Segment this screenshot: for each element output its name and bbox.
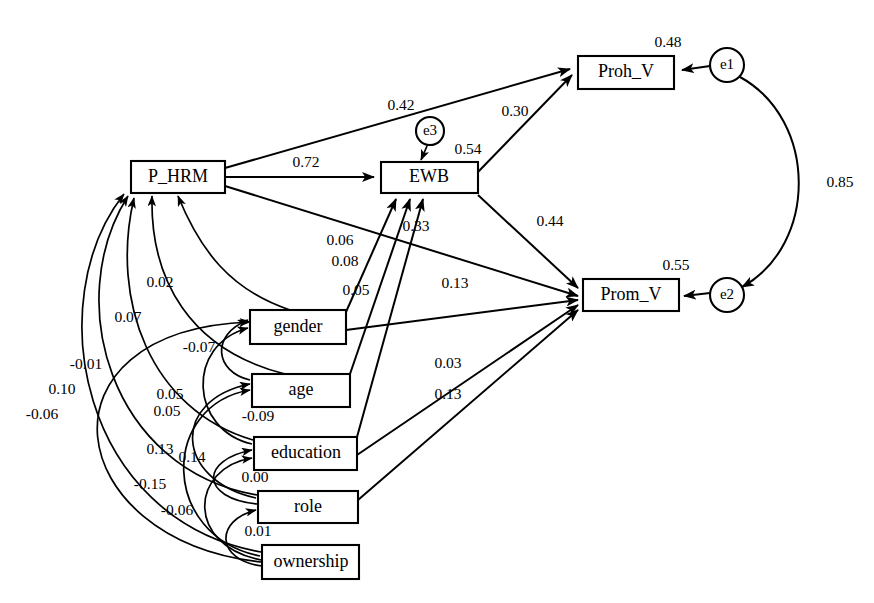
- node-label-age: age: [289, 379, 314, 399]
- edge-e1-prohv: [682, 66, 710, 70]
- arc-ownership-gender: [97, 322, 261, 562]
- edge-education-ewb: [357, 199, 423, 437]
- edge-ewb-prohv: [478, 75, 572, 172]
- path-label-ewb-prohv: 0.30: [501, 102, 528, 119]
- edge-gender-promv: [346, 300, 578, 330]
- cov-label-role-ownership: -0.06: [161, 501, 194, 518]
- node-label-role: role: [294, 496, 322, 516]
- path-label-gender-promv: 0.13: [441, 274, 468, 291]
- edge-e1-e2-covariance: [740, 77, 799, 287]
- cov-label-gender-ownership: -0.06: [26, 405, 59, 422]
- arc-gender-phrm: [178, 196, 290, 310]
- path-label-ewb-promv: 0.44: [536, 212, 563, 229]
- node-label-prom-v: Prom_V: [600, 284, 661, 304]
- node-label-e3: e3: [423, 122, 437, 138]
- edge-e3-ewb: [421, 146, 427, 160]
- cov-label-phrm-education: -0.07: [183, 338, 216, 355]
- rsq-label-ewb: 0.54: [454, 140, 481, 157]
- cov-label-gender-education: 0.05: [153, 402, 180, 419]
- path-label-role-promv: 0.13: [434, 385, 461, 402]
- sem-path-diagram: P_HRM EWB Proh_V Prom_V gender age educa…: [0, 0, 874, 603]
- cov-label-adjacent-education: 0.00: [241, 468, 268, 485]
- node-label-e1: e1: [720, 56, 734, 72]
- cov-label-adjacent-age: -0.09: [242, 407, 275, 424]
- latent-nodes: P_HRM EWB Proh_V Prom_V: [131, 56, 679, 311]
- cov-label-gender-age: 0.05: [156, 385, 183, 402]
- path-label-phrm-ewb: 0.72: [292, 153, 319, 170]
- rsq-label-prom-v: 0.55: [662, 256, 689, 273]
- node-label-e2: e2: [720, 286, 734, 302]
- node-label-ewb: EWB: [409, 166, 449, 186]
- node-label-p-hrm: P_HRM: [148, 166, 208, 186]
- edge-ewb-promv: [478, 195, 578, 288]
- cov-label-education-role: -0.15: [134, 475, 167, 492]
- cov-label-age-ownership: 0.14: [178, 448, 205, 465]
- rsq-label-proh-v: 0.48: [654, 33, 681, 50]
- node-label-education: education: [271, 442, 341, 462]
- path-label-gender-ewb: 0.08: [331, 252, 358, 269]
- edge-role-promv: [358, 310, 578, 500]
- cov-label-age-role: 0.13: [146, 440, 173, 457]
- path-label-phrm-promv: 0.06: [326, 231, 353, 248]
- path-label-education-ewb: 0.33: [402, 217, 429, 234]
- path-label-phrm-prohv: 0.42: [387, 96, 414, 113]
- observed-nodes: gender age education role ownership: [250, 310, 359, 579]
- path-label-education-promv: 0.03: [434, 354, 461, 371]
- node-label-ownership: ownership: [274, 551, 349, 571]
- edge-education-promv: [357, 305, 578, 455]
- path-label-age-ewb: 0.05: [342, 281, 369, 298]
- cov-label-phrm-role: -0.01: [70, 355, 102, 372]
- cov-label-phrm-ownership: 0.10: [48, 380, 75, 397]
- cov-label-adjacent-role: 0.01: [244, 522, 271, 539]
- diagram-canvas: P_HRM EWB Proh_V Prom_V gender age educa…: [0, 0, 874, 603]
- cov-label-phrm-gender: 0.02: [146, 273, 173, 290]
- node-label-proh-v: Proh_V: [598, 61, 654, 81]
- edge-e2-promv: [684, 293, 710, 296]
- cov-label-e1-e2: 0.85: [826, 173, 853, 190]
- cov-label-phrm-age: 0.07: [114, 308, 141, 325]
- observed-to-latent-edges: [346, 199, 578, 500]
- node-label-gender: gender: [274, 316, 323, 336]
